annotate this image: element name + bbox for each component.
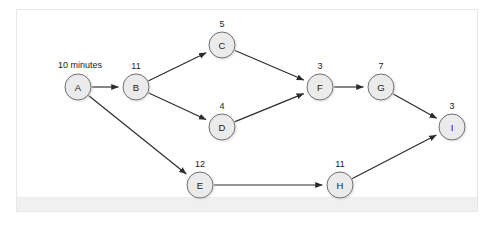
node-duration-b: 11 [131,61,140,71]
node-duration-i: 3 [449,101,454,111]
node-h: H [327,172,353,198]
node-label-b: B [133,82,139,93]
node-label-e: E [197,180,203,191]
node-label-a: A [75,82,82,93]
node-duration-e: 12 [195,159,205,169]
edge-a-to-e [89,95,187,174]
edges-layer [89,50,437,185]
node-label-g: G [377,82,384,93]
edge-d-to-f [235,94,304,122]
node-e: E [187,172,213,198]
edge-g-to-i [393,94,437,119]
edge-h-to-i [352,135,436,179]
node-label-i: I [451,122,454,133]
nodes-layer: ABCDEFGHI [65,32,465,198]
node-label-h: H [337,180,344,191]
network-graph: ABCDEFGHI 10 minutes11541237113 [0,0,504,229]
node-g: G [368,74,394,100]
edge-b-to-c [148,53,206,81]
node-label-f: F [317,82,323,93]
node-duration-f: 3 [317,61,322,71]
node-b: B [123,74,149,100]
node-d: D [209,114,235,140]
node-a: A [65,74,91,100]
node-duration-g: 7 [378,61,383,71]
node-duration-c: 5 [219,19,224,29]
node-c: C [209,32,235,58]
node-f: F [307,74,333,100]
node-i: I [439,114,465,140]
node-label-c: C [219,40,226,51]
node-duration-d: 4 [219,101,224,111]
edge-b-to-d [148,93,206,120]
edge-c-to-f [234,50,303,80]
node-duration-h: 11 [335,159,344,169]
labels-layer: 10 minutes11541237113 [58,19,455,169]
node-label-d: D [219,122,226,133]
network-diagram-figure: ABCDEFGHI 10 minutes11541237113 [0,0,504,229]
start-duration-label: 10 minutes [58,60,103,70]
